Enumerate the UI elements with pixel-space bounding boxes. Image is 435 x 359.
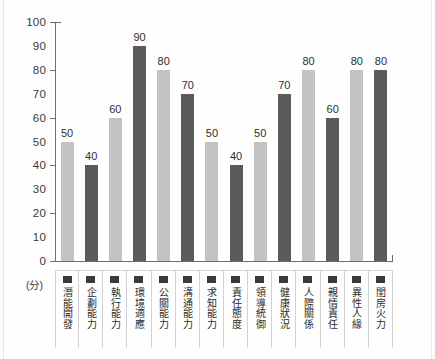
category-cell: 異性人緣 <box>345 270 369 348</box>
bar: 40 <box>230 165 243 261</box>
y-axis-tick-label: 40 <box>33 159 46 171</box>
bar: 80 <box>350 70 363 261</box>
bar-value-label: 70 <box>182 79 194 91</box>
y-axis-tick-label: 90 <box>33 40 46 52</box>
legend-square-icon <box>328 276 337 283</box>
bar: 70 <box>181 94 194 261</box>
legend-square-icon <box>134 276 143 283</box>
category-cell: 親情責任 <box>321 270 345 348</box>
bar: 90 <box>133 46 146 261</box>
category-cell: 領導統御 <box>248 270 272 348</box>
legend-square-icon <box>231 276 240 283</box>
y-axis-tick-label: 10 <box>33 231 46 243</box>
x-axis-line <box>55 261 393 262</box>
y-axis-tick-label: 70 <box>33 88 46 100</box>
legend-square-icon <box>110 276 119 283</box>
y-axis-tick-label: 60 <box>33 112 46 124</box>
category-cell: 責任態度 <box>224 270 248 348</box>
category-label: 求知能力 <box>206 287 217 329</box>
y-axis-tick-label: 100 <box>26 16 46 28</box>
bar-value-label: 60 <box>109 103 121 115</box>
category-cell: 求知能力 <box>200 270 224 348</box>
y-axis-tick-mark <box>50 261 55 262</box>
bar-value-label: 40 <box>85 150 97 162</box>
category-cell: 企劃能力 <box>79 270 103 348</box>
y-axis-tick-mark <box>50 165 55 166</box>
x-axis-right-cap <box>392 255 393 262</box>
category-label: 潛能開發 <box>62 287 73 329</box>
bar: 40 <box>85 165 98 261</box>
legend-square-icon <box>63 276 72 283</box>
y-axis-top-cap <box>55 22 61 23</box>
legend-square-icon <box>86 276 95 283</box>
y-axis-unit-label: (分) <box>26 277 43 292</box>
category-cell: 閨房火力 <box>369 270 393 348</box>
bar-value-label: 80 <box>158 55 170 67</box>
bar-value-label: 50 <box>61 127 73 139</box>
category-label: 公關能力 <box>158 287 169 329</box>
category-cell: 執行能力 <box>103 270 127 348</box>
category-cell: 環境適應 <box>127 270 151 348</box>
bar: 70 <box>278 94 291 261</box>
page-edge-right <box>431 0 432 359</box>
chart-page: 1009080706050403020100 50406090807050405… <box>0 0 435 359</box>
category-cell: 健康狀況 <box>272 270 296 348</box>
bar-value-label: 80 <box>351 55 363 67</box>
category-label: 企劃能力 <box>85 287 96 329</box>
bar-value-label: 50 <box>254 127 266 139</box>
legend-square-icon <box>376 276 385 283</box>
category-label: 執行能力 <box>109 287 120 329</box>
bar: 50 <box>61 142 74 262</box>
legend-square-icon <box>255 276 264 283</box>
y-axis-tick-label: 50 <box>33 136 46 148</box>
y-axis-tick-mark <box>50 22 55 23</box>
y-axis-tick-label: 20 <box>33 207 46 219</box>
bar: 50 <box>254 142 267 262</box>
legend-square-icon <box>303 276 312 283</box>
category-cell: 溝通能力 <box>176 270 200 348</box>
category-cell: 潛能開發 <box>55 270 79 348</box>
bar-value-label: 60 <box>327 103 339 115</box>
category-label: 溝通能力 <box>182 287 193 329</box>
bar: 60 <box>109 118 122 261</box>
category-label: 閨房火力 <box>375 287 386 329</box>
y-axis-tick-mark <box>50 118 55 119</box>
category-label: 人際關係 <box>302 287 313 329</box>
category-cell: 人際關係 <box>296 270 320 348</box>
bar-value-label: 80 <box>375 55 387 67</box>
bar-value-label: 40 <box>230 150 242 162</box>
legend-square-icon <box>352 276 361 283</box>
y-axis-tick-label: 0 <box>39 255 46 267</box>
bar: 80 <box>157 70 170 261</box>
y-axis-tick-mark <box>50 70 55 71</box>
category-label-table: 潛能開發企劃能力執行能力環境適應公關能力溝通能力求知能力責任態度領導統御健康狀況… <box>55 270 393 348</box>
bar-value-label: 70 <box>278 79 290 91</box>
category-label: 異性人緣 <box>351 287 362 329</box>
bar-chart-plot-area: 1009080706050403020100 50406090807050405… <box>55 22 393 262</box>
category-label: 責任態度 <box>230 287 241 329</box>
bar: 80 <box>302 70 315 261</box>
bar-value-label: 90 <box>133 31 145 43</box>
page-edge-left <box>3 0 4 359</box>
legend-square-icon <box>159 276 168 283</box>
bar: 50 <box>205 142 218 262</box>
bar-value-label: 80 <box>302 55 314 67</box>
legend-square-icon <box>207 276 216 283</box>
y-axis-tick-label: 80 <box>33 64 46 76</box>
category-label: 領導統御 <box>254 287 265 329</box>
bar-value-label: 50 <box>206 127 218 139</box>
bar: 60 <box>326 118 339 261</box>
category-label: 健康狀況 <box>278 287 289 329</box>
legend-square-icon <box>183 276 192 283</box>
y-axis-tick-mark <box>50 213 55 214</box>
category-label: 親情責任 <box>327 287 338 329</box>
category-label: 環境適應 <box>133 287 144 329</box>
y-axis-line <box>55 22 56 262</box>
category-cell: 公關能力 <box>152 270 176 348</box>
legend-square-icon <box>279 276 288 283</box>
bar: 80 <box>374 70 387 261</box>
y-axis-tick-label: 30 <box>33 183 46 195</box>
